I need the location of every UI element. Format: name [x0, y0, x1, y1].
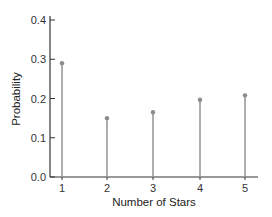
y-tick-label: 0.1: [31, 132, 46, 144]
y-tick-label: 0.4: [31, 14, 46, 26]
x-axis-label: Number of Stars: [112, 196, 196, 208]
stem-marker: [60, 61, 64, 65]
y-tick-label: 0.0: [31, 171, 46, 183]
stems: [60, 61, 247, 177]
stem-marker: [243, 93, 247, 97]
x-tick-label: 5: [242, 182, 248, 194]
x-tick-label: 2: [104, 182, 110, 194]
stem-marker: [105, 116, 109, 120]
y-axis-label: Probability: [10, 72, 22, 126]
y-tick-label: 0.2: [31, 93, 46, 105]
x-axis: 12345: [50, 177, 258, 194]
probability-stem-chart: 0.00.10.20.30.4 12345 Probability Number…: [0, 0, 272, 217]
y-axis: 0.00.10.20.30.4: [31, 14, 55, 183]
y-tick-label: 0.3: [31, 53, 46, 65]
stem-marker: [151, 110, 155, 114]
x-tick-label: 4: [197, 182, 203, 194]
stem-marker: [198, 97, 202, 101]
x-tick-label: 3: [150, 182, 156, 194]
x-tick-label: 1: [59, 182, 65, 194]
